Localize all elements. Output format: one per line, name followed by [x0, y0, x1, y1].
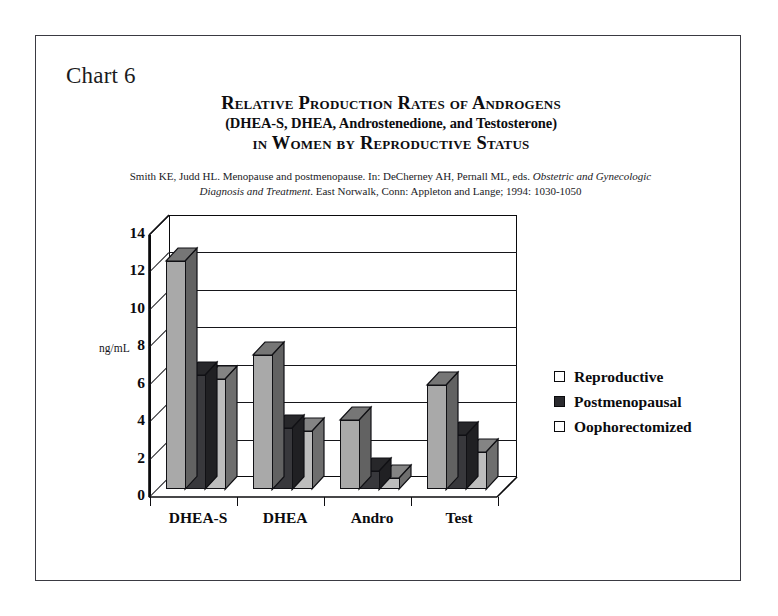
bar-side-face: [446, 372, 486, 517]
chart-legend: ReproductivePostmenopausalOophorectomize…: [554, 364, 769, 439]
legend-item-postmenopausal[interactable]: Postmenopausal: [554, 389, 769, 414]
chart-plot-area: ng/mL 02468101214 DHEA-SDHEAAndroTest: [101, 211, 521, 511]
chart-title-line-1: Relative Production Rates of Androgens: [96, 93, 686, 114]
x-axis-tick: [150, 497, 152, 506]
legend-swatch-icon: [554, 421, 565, 432]
legend-item-oophorectomized[interactable]: Oophorectomized: [554, 414, 769, 439]
y-tick-label: 12: [119, 261, 145, 279]
legend-item-reproductive[interactable]: Reproductive: [554, 364, 769, 389]
y-tick-label: 2: [119, 449, 145, 467]
chart-title-line-2: (DHEA-S, DHEA, Androstenedione, and Test…: [96, 115, 686, 132]
citation-journal-1: Obstetric and Gynecologic: [533, 170, 652, 182]
legend-swatch-icon: [554, 371, 565, 382]
legend-label: Reproductive: [574, 368, 663, 386]
bar-side-face: [272, 342, 312, 517]
y-tick-label: 14: [119, 224, 145, 242]
citation-journal-2: Diagnosis and Treatment: [199, 185, 310, 197]
legend-label: Postmenopausal: [574, 393, 682, 411]
y-tick-label: 10: [119, 299, 145, 317]
legend-swatch-icon: [554, 396, 565, 407]
citation-text-part2: . East Norwalk, Conn: Appleton and Lange…: [310, 185, 581, 197]
y-tick-label: 8: [119, 336, 145, 354]
y-tick-label: 4: [119, 411, 145, 429]
chart-title-line-3: in Women by Reproductive Status: [96, 133, 686, 154]
bar-front-face: [166, 261, 186, 489]
chart-title-block: Relative Production Rates of Androgens (…: [96, 93, 686, 155]
y-tick-label: 6: [119, 374, 145, 392]
y-tick-label: 0: [119, 486, 145, 504]
legend-label: Oophorectomized: [574, 418, 692, 436]
bar-side-face: [185, 248, 225, 516]
citation-text-part1: Smith KE, Judd HL. Menopause and postmen…: [130, 170, 533, 182]
chart-label: Chart 6: [66, 63, 136, 89]
bar-dhea-s-reproductive: [166, 261, 186, 489]
slide-frame: Chart 6 Relative Production Rates of And…: [35, 35, 741, 581]
chart-citation: Smith KE, Judd HL. Menopause and postmen…: [68, 169, 713, 198]
